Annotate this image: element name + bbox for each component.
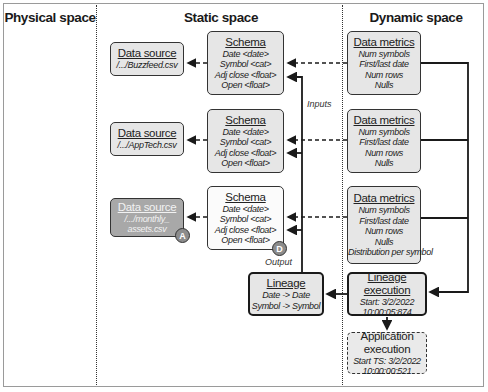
schema-title: Schema (208, 114, 283, 127)
metric-item: Nulls (348, 158, 420, 169)
badge-a-icon: A (175, 228, 190, 243)
lineage-execution-box[interactable]: Lineage execution Start: 3/2/2022 10:00:… (347, 272, 427, 316)
data-source-path-line-1: /.../monthly_ (111, 214, 183, 225)
schema-field: Symbol <cat> (208, 214, 283, 225)
data-source-title: Data source (111, 47, 183, 60)
metric-item: First/last date (348, 216, 420, 227)
lineage-title: Lineage (250, 277, 322, 290)
data-metrics-title: Data metrics (348, 192, 420, 205)
header-physical-space: Physical space (4, 10, 95, 25)
data-source-buzzfeed[interactable]: Data source /.../Buzzfeed.csv (110, 42, 184, 76)
metric-item: Nulls (348, 80, 420, 91)
schema-field: Date <date> (208, 49, 283, 60)
schema-box-3[interactable]: Schema Date <date> Symbol <cat> Adj clos… (207, 186, 284, 250)
lineage-execution-title: Lineage execution (349, 271, 425, 297)
divider-static-dynamic (342, 5, 343, 385)
schema-field: Symbol <cat> (208, 137, 283, 148)
output-label: Output (265, 257, 292, 267)
metric-item: First/last date (348, 137, 420, 148)
header-dynamic-space: Dynamic space (369, 10, 462, 25)
metric-item: First/last date (348, 59, 420, 70)
schema-field: Adj close <float> (208, 70, 283, 81)
metric-item: Num symbols (348, 205, 420, 216)
data-source-apptech[interactable]: Data source /.../AppTech.csv (110, 122, 184, 156)
divider-physical-static (96, 5, 97, 385)
lineage-mapping: Symbol -> Symbol (250, 301, 322, 312)
data-source-monthly-assets[interactable]: Data source /.../monthly_ assets.csv (110, 198, 184, 237)
metric-item: Num symbols (348, 127, 420, 138)
metric-item: Num rows (348, 148, 420, 159)
schema-field: Adj close <float> (208, 148, 283, 159)
metric-item: Num rows (348, 226, 420, 237)
header-static-space: Static space (184, 10, 258, 25)
schema-field: Symbol <cat> (208, 59, 283, 70)
data-metrics-box-1[interactable]: Data metrics Num symbols First/last date… (347, 31, 421, 95)
application-execution-start: Start TS: 3/2/2022 (348, 356, 426, 367)
lineage-execution-time: 10:00:05:874 (349, 307, 425, 318)
data-source-title: Data source (111, 201, 183, 214)
data-source-path-line-2: assets.csv (111, 224, 183, 235)
data-metrics-box-2[interactable]: Data metrics Num symbols First/last date… (347, 109, 421, 173)
schema-box-2[interactable]: Schema Date <date> Symbol <cat> Adj clos… (207, 109, 284, 173)
data-metrics-title: Data metrics (348, 114, 420, 127)
lineage-mapping: Date -> Date (250, 290, 322, 301)
schema-title: Schema (208, 191, 283, 204)
lineage-execution-start: Start: 3/2/2022 (349, 297, 425, 308)
metric-item: Num symbols (348, 49, 420, 60)
metric-item: Num rows (348, 70, 420, 81)
data-metrics-title: Data metrics (348, 36, 420, 49)
inputs-label: Inputs (307, 99, 332, 109)
schema-field: Open <float> (208, 80, 283, 91)
schema-field: Adj close <float> (208, 225, 283, 236)
schema-title: Schema (208, 36, 283, 49)
schema-field: Open <float> (208, 235, 283, 246)
data-source-title: Data source (111, 127, 183, 140)
badge-d-icon: D (272, 241, 287, 256)
schema-box-1[interactable]: Schema Date <date> Symbol <cat> Adj clos… (207, 31, 284, 95)
metric-item: Distribution per symbol (348, 247, 420, 258)
lineage-box[interactable]: Lineage Date -> Date Symbol -> Symbol (248, 272, 324, 316)
application-execution-title: Application execution (348, 330, 426, 356)
data-source-path: /.../Buzzfeed.csv (111, 60, 183, 71)
data-metrics-box-3[interactable]: Data metrics Num symbols First/last date… (347, 186, 421, 264)
metric-item: Nulls (348, 237, 420, 248)
application-execution-box[interactable]: Application execution Start TS: 3/2/2022… (347, 332, 427, 374)
application-execution-time: 10:00:00:521 (348, 366, 426, 377)
data-source-path: /.../AppTech.csv (111, 140, 183, 151)
schema-field: Date <date> (208, 204, 283, 215)
schema-field: Date <date> (208, 127, 283, 138)
schema-field: Open <float> (208, 158, 283, 169)
